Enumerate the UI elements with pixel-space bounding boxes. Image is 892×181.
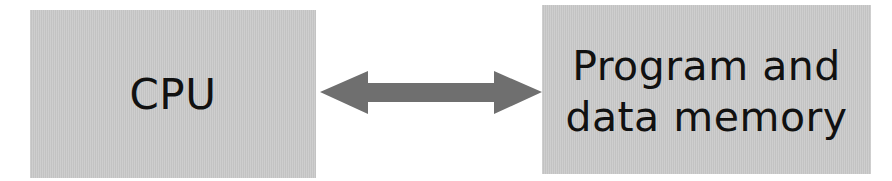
memory-label-line-1: Program and — [565, 41, 847, 92]
double-arrow-icon — [318, 69, 544, 117]
memory-label-line-2: data memory — [565, 92, 847, 143]
program-data-memory-box: Program and data memory — [542, 5, 871, 174]
cpu-label: CPU — [130, 69, 217, 120]
cpu-box: CPU — [30, 10, 316, 178]
memory-label: Program and data memory — [565, 41, 847, 143]
